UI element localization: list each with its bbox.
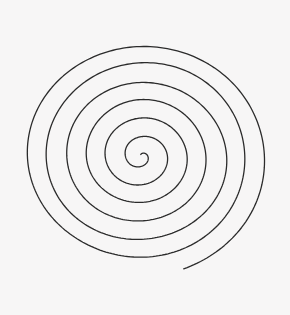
drawing-canvas [0,0,290,315]
spiral-figure [0,0,290,315]
canvas-background [0,0,290,315]
